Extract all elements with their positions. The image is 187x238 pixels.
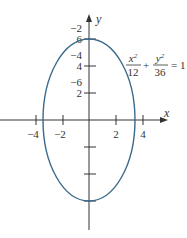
svg-text:= 1: = 1 [171,59,185,71]
x-axis-label: x [163,106,170,120]
svg-text:6: 6 [77,33,83,45]
equation-label: x2 12 + y2 36 = 1 [126,52,185,78]
svg-text:2: 2 [113,128,119,140]
svg-text:36: 36 [155,66,167,78]
svg-text:+: + [143,59,149,71]
svg-text:y2: y2 [155,52,165,64]
ellipse-chart: −4 −2 2 4 −6 −4 −2 2 4 6 y x x2 12 + y2 … [0,0,187,238]
svg-text:−2: −2 [54,128,66,140]
svg-text:−4: −4 [27,128,39,140]
svg-text:2: 2 [77,87,83,99]
x-tick-labels: −4 −2 2 4 [27,128,146,140]
y-axis-label: y [95,12,102,26]
y-axis-arrow-icon [86,14,92,22]
y-tick-labels: −6 −4 −2 2 4 6 [70,22,82,99]
svg-text:4: 4 [77,60,83,72]
svg-text:x2: x2 [128,52,138,64]
svg-text:12: 12 [128,66,139,78]
svg-text:4: 4 [140,128,146,140]
